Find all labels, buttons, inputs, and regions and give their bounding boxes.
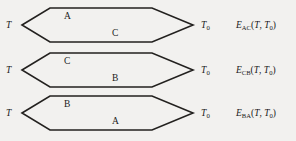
emf-arg2: T bbox=[264, 20, 269, 30]
upper-leg-label-cb: C bbox=[64, 57, 70, 67]
emf-symbol: E bbox=[236, 65, 242, 75]
thermoelectric-loop-figure: T T0 A C EAC(T, T0) T T0 C B ECB(T, T0) … bbox=[0, 0, 296, 141]
emf-expression-ba: EBA(T, T0) bbox=[236, 109, 276, 119]
emf-subscript: AC bbox=[242, 24, 251, 31]
loop-row-ac: T T0 A C EAC(T, T0) bbox=[0, 2, 296, 49]
emf-subscript: BA bbox=[242, 112, 251, 119]
hot-junction-temperature-cb: T bbox=[6, 66, 11, 76]
cold-junction-temperature-ac: T0 bbox=[201, 21, 210, 31]
lower-leg-label-ac: C bbox=[112, 29, 118, 39]
emf-close-paren: ) bbox=[273, 20, 276, 30]
emf-expression-cb: ECB(T, T0) bbox=[236, 66, 276, 76]
emf-symbol: E bbox=[236, 20, 242, 30]
loop-row-cb: T T0 C B ECB(T, T0) bbox=[0, 47, 296, 94]
lower-leg-label-ba: A bbox=[112, 117, 119, 127]
emf-arg2-subscript: 0 bbox=[270, 24, 273, 31]
cold-junction-temperature-ba: T0 bbox=[201, 109, 210, 119]
lower-leg-label-cb: B bbox=[112, 74, 118, 84]
emf-subscript: CB bbox=[242, 69, 251, 76]
hot-junction-temperature-ba: T bbox=[6, 109, 11, 119]
hexagon-outline bbox=[22, 53, 193, 87]
cold-junction-temperature-cb: T0 bbox=[201, 66, 210, 76]
hexagon-outline bbox=[22, 8, 193, 42]
upper-leg-label-ac: A bbox=[64, 12, 71, 22]
loop-row-ba: T T0 B A EBA(T, T0) bbox=[0, 90, 296, 137]
hot-junction-temperature-ac: T bbox=[6, 21, 11, 31]
emf-arg2-subscript: 0 bbox=[270, 112, 273, 119]
upper-leg-label-ba: B bbox=[64, 100, 70, 110]
emf-arg2: T bbox=[264, 108, 269, 118]
emf-arg2-subscript: 0 bbox=[269, 69, 272, 76]
emf-close-paren: ) bbox=[273, 108, 276, 118]
emf-expression-ac: EAC(T, T0) bbox=[236, 21, 276, 31]
cold-temperature-subscript: 0 bbox=[206, 112, 209, 119]
emf-symbol: E bbox=[236, 108, 242, 118]
hexagon-outline bbox=[22, 96, 193, 130]
cold-temperature-subscript: 0 bbox=[206, 69, 209, 76]
emf-close-paren: ) bbox=[272, 65, 275, 75]
cold-temperature-subscript: 0 bbox=[206, 24, 209, 31]
